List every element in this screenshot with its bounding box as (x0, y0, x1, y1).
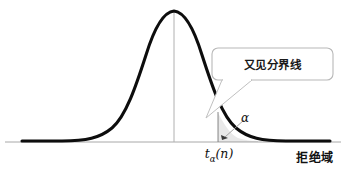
distribution-figure: 又见分界线 tα(n) α 拒绝域 (0, 0, 345, 173)
alpha-label: α (241, 111, 249, 125)
critical-value-label: tα(n) (193, 146, 245, 164)
rejection-region-label: 拒绝域 (296, 148, 334, 165)
distribution-chart-svg (0, 0, 345, 173)
callout-bubble (212, 48, 333, 80)
critical-value-argument: (n) (215, 146, 233, 161)
